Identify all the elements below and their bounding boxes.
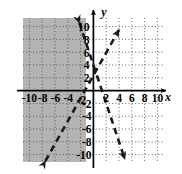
x-tick-label--4: -4 — [63, 92, 73, 104]
y-tick-label--2: -2 — [82, 98, 92, 110]
x-tick-label--6: -6 — [51, 92, 61, 104]
y-tick-label--10: -10 — [76, 149, 92, 161]
x-tick-label-4: 4 — [116, 92, 122, 104]
y-tick-label-6: 6 — [84, 47, 90, 59]
coordinate-plane-svg: -10 -8 -6 -4 -2 2 4 6 8 10 10 8 6 4 2 -2… — [0, 0, 182, 174]
coordinate-graph-figure: -10 -8 -6 -4 -2 2 4 6 8 10 10 8 6 4 2 -2… — [0, 0, 182, 174]
y-axis-label: y — [99, 5, 107, 19]
y-tick-label-10: 10 — [78, 21, 90, 33]
x-tick-label-6: 6 — [129, 92, 135, 104]
y-tick-label-4: 4 — [84, 59, 90, 71]
x-axis-label: x — [164, 90, 171, 104]
x-tick-label--8: -8 — [38, 92, 48, 104]
y-tick-label--6: -6 — [82, 123, 92, 135]
x-tick-label-10: 10 — [152, 92, 164, 104]
x-tick-label-2: 2 — [103, 92, 109, 104]
y-tick-label--4: -4 — [82, 110, 92, 122]
y-tick-label-2: 2 — [84, 72, 90, 84]
y-tick-label--8: -8 — [82, 136, 92, 148]
x-tick-label-8: 8 — [142, 92, 148, 104]
y-tick-label-8: 8 — [84, 34, 90, 46]
x-tick-label--10: -10 — [22, 92, 38, 104]
